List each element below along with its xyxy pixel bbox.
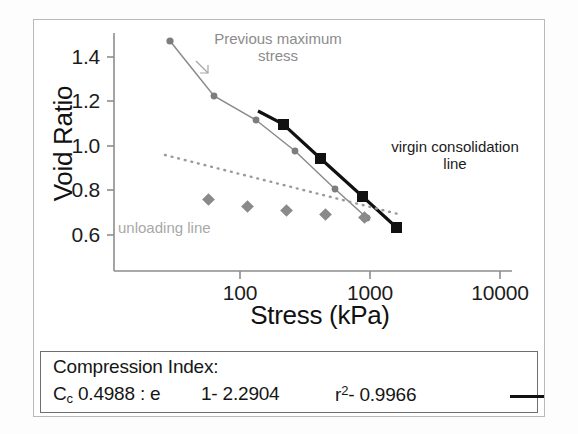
x-tick-label-10000: 10000 <box>452 281 548 305</box>
figure-root: 1.4 1.2 1.0 0.8 0.6 100 1000 10000 Void … <box>0 0 578 434</box>
data-point-marker <box>315 153 326 164</box>
annotation-virgin-consolidation-line: virgin consolidation line <box>362 138 548 173</box>
caption-r-squared-term: r2- 0.9966 <box>335 383 416 406</box>
data-point-marker <box>211 93 218 100</box>
caption-r-value: - 0.9966 <box>348 384 416 405</box>
data-point-marker <box>292 148 299 155</box>
caption-cc-prefix: C <box>53 383 67 404</box>
annotation-previous-max-stress: Previous maximum stress <box>188 30 368 65</box>
data-point-marker <box>202 193 215 206</box>
data-point-marker <box>253 117 260 124</box>
data-point-marker <box>357 191 368 202</box>
compression-index-caption-box: Compression Index: Cc 0.4988 : e 1- 2.29… <box>40 351 538 413</box>
caption-cc-subscript: c <box>67 391 73 406</box>
data-point-marker <box>241 200 254 213</box>
annotation-unloading-line: unloading line <box>118 219 258 236</box>
series-loading-curve <box>166 37 370 221</box>
data-point-marker <box>358 211 371 224</box>
y-tick-marks <box>107 57 114 235</box>
caption-cc-value: 0.4988 : e <box>78 383 161 404</box>
data-point-marker <box>391 222 402 233</box>
caption-e-term: 1- 2.2904 <box>201 383 280 405</box>
caption-values-row: Cc 0.4988 : e 1- 2.2904 r2- 0.9966 <box>53 381 537 411</box>
x-axis-title: Stress (kPa) <box>180 300 460 331</box>
annotation-previous-max-stress-line1: Previous maximum <box>188 30 368 47</box>
data-point-marker <box>166 37 173 44</box>
y-axis-title: Void Ratio <box>48 34 79 254</box>
caption-cc-term: Cc 0.4988 : e <box>53 383 160 406</box>
annotation-virgin-line2: line <box>362 155 548 172</box>
data-point-marker <box>280 204 293 217</box>
x-tick-marks <box>240 271 500 279</box>
data-point-marker <box>319 208 332 221</box>
data-point-marker <box>278 119 289 130</box>
annotation-virgin-line1: virgin consolidation <box>362 138 548 155</box>
legend-line-sample <box>510 395 544 398</box>
caption-heading: Compression Index: <box>53 356 218 378</box>
annotation-previous-max-stress-line2: stress <box>188 47 368 64</box>
data-point-marker <box>332 186 339 193</box>
